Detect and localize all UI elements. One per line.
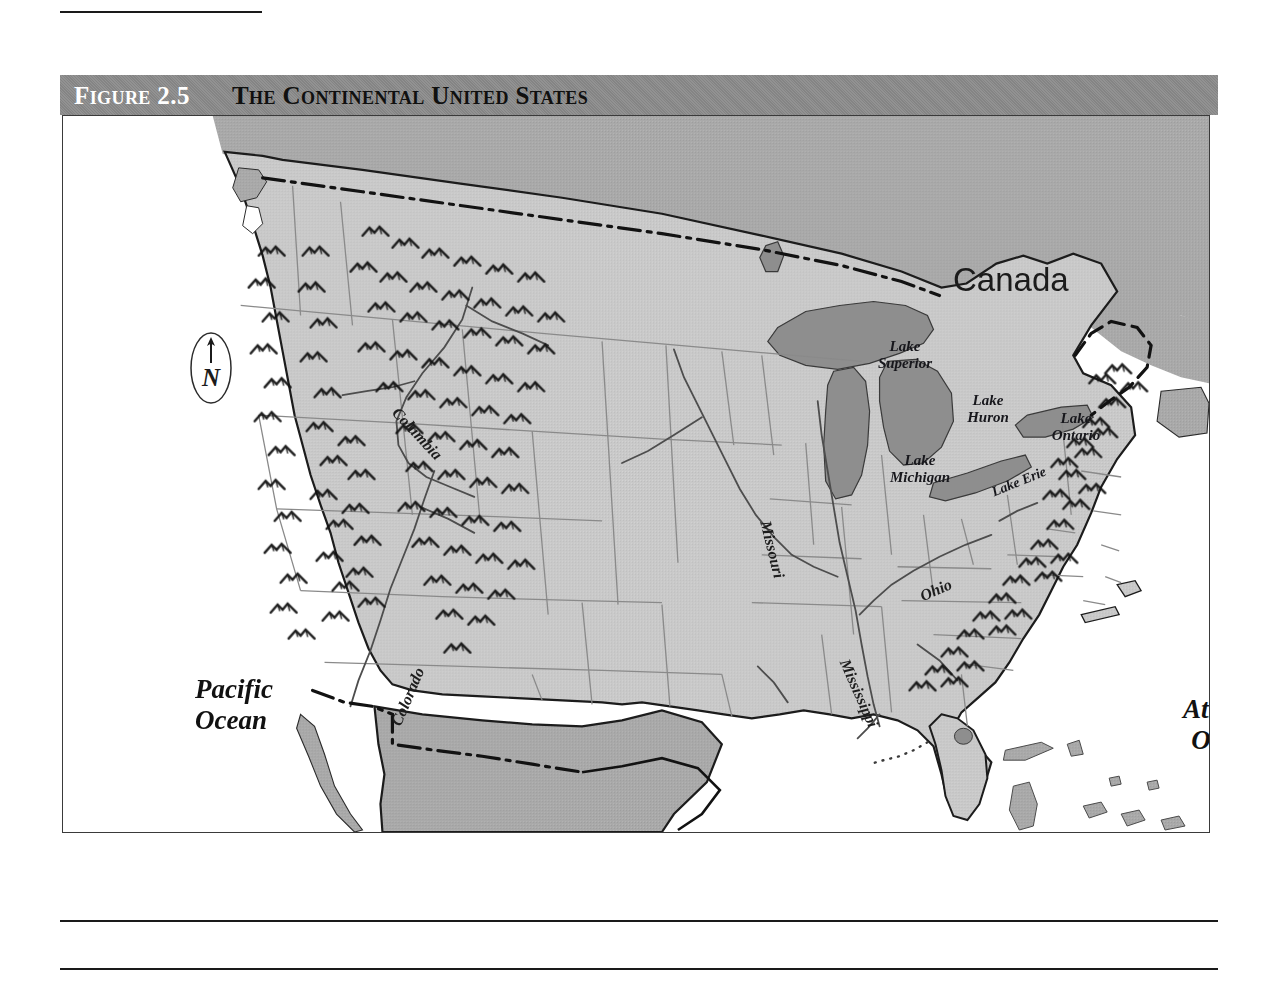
label-pacific-ocean: Pacific Ocean — [195, 674, 273, 736]
label-lake-huron-line1: Lake — [953, 392, 1023, 409]
label-lake-michigan: Lake Michigan — [875, 452, 965, 485]
label-lake-ontario: Lake Ontario — [1038, 410, 1114, 443]
bottom-horizontal-rule-2 — [60, 968, 1218, 970]
label-lake-huron: Lake Huron — [953, 392, 1023, 425]
label-atlantic-line1: Atlantic — [1183, 694, 1210, 725]
figure-title: The Continental United States — [232, 82, 588, 110]
map-frame: N 0 800 km — [62, 115, 1210, 833]
label-lake-ontario-line1: Lake — [1038, 410, 1114, 427]
label-pacific-line1: Pacific — [195, 674, 273, 705]
compass-north-label: N — [182, 364, 240, 392]
mexico-landmass — [297, 706, 722, 832]
bottom-horizontal-rule-1 — [60, 920, 1218, 922]
bahamas-islands — [1003, 740, 1185, 830]
figure-title-bar: Figure 2.5 The Continental United States — [60, 75, 1218, 115]
label-lake-michigan-line1: Lake — [875, 452, 965, 469]
label-lake-superior-line2: Superior — [860, 355, 950, 372]
label-lake-huron-line2: Huron — [953, 409, 1023, 426]
label-lake-superior: Lake Superior — [860, 338, 950, 371]
lake-okeechobee — [954, 728, 972, 744]
label-lake-superior-line1: Lake — [860, 338, 950, 355]
label-canada: Canada — [953, 261, 1069, 299]
label-lake-michigan-line2: Michigan — [875, 469, 965, 486]
label-atlantic-line2: Ocean — [1183, 725, 1210, 756]
compass-rose: N — [182, 331, 240, 405]
florida-keys — [870, 742, 928, 764]
label-pacific-line2: Ocean — [195, 705, 273, 736]
figure-block: Figure 2.5 The Continental United States — [60, 75, 1218, 835]
label-lake-ontario-line2: Ontario — [1038, 427, 1114, 444]
top-horizontal-rule — [60, 11, 262, 13]
label-atlantic-ocean: Atlantic Ocean — [1183, 694, 1210, 756]
figure-number: Figure 2.5 — [74, 82, 190, 110]
